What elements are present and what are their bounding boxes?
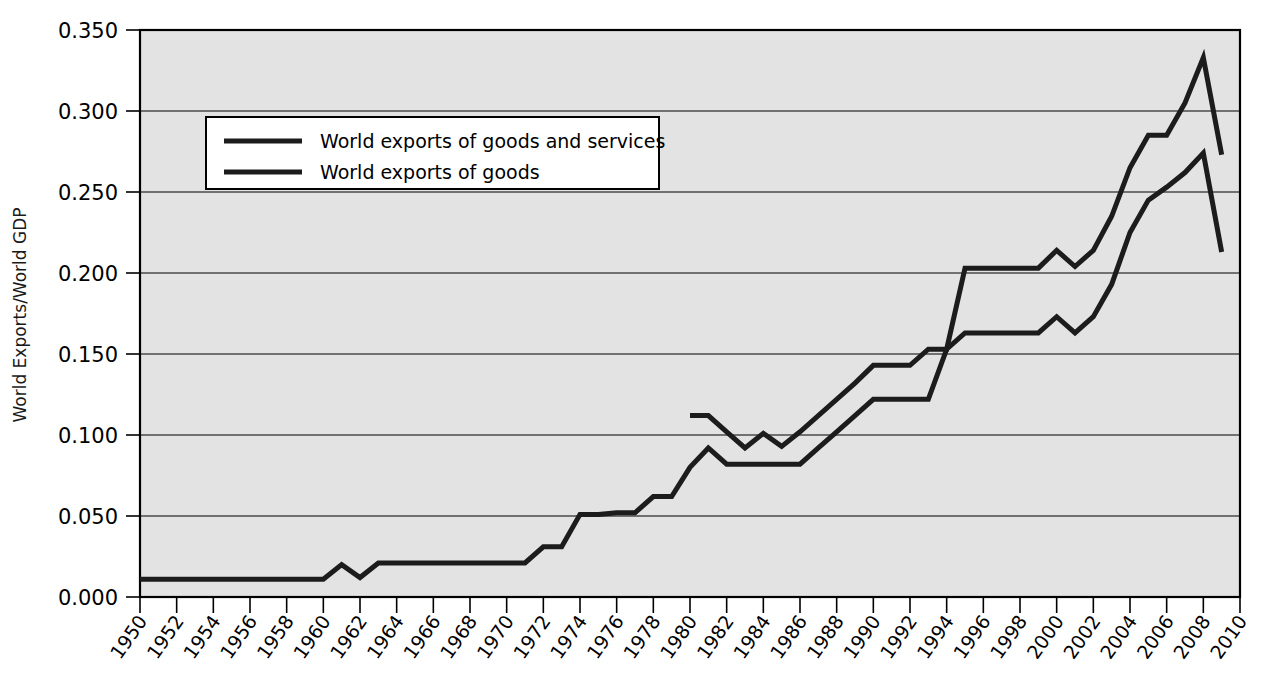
y-tick-label: 0.150 — [58, 343, 118, 367]
plot-area-background — [140, 30, 1240, 597]
y-tick-label: 0.100 — [58, 424, 118, 448]
y-tick-label: 0.300 — [58, 100, 118, 124]
legend: World exports of goods and servicesWorld… — [206, 117, 665, 189]
legend-label-1: World exports of goods — [320, 161, 540, 183]
y-tick-label: 0.250 — [58, 181, 118, 205]
y-tick-label: 0.200 — [58, 262, 118, 286]
y-tick-label: 0.050 — [58, 505, 118, 529]
legend-label-0: World exports of goods and services — [320, 130, 665, 152]
chart-container: 0.0000.0500.1000.1500.2000.2500.3000.350… — [0, 0, 1269, 690]
y-tick-label: 0.000 — [58, 586, 118, 610]
y-axis-title: World Exports/World GDP — [10, 208, 30, 423]
y-tick-label: 0.350 — [58, 19, 118, 43]
line-chart: 0.0000.0500.1000.1500.2000.2500.3000.350… — [0, 0, 1269, 690]
